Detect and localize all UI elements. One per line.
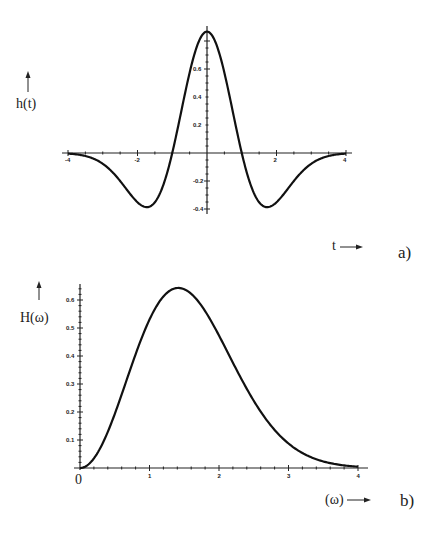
panel-label-a: a) [398, 243, 411, 262]
x-tick-label: 4 [343, 157, 347, 163]
y-tick-label: 0.3 [66, 381, 75, 387]
x-tick-label: 1 [148, 473, 152, 479]
y-tick-label: -0.2 [193, 178, 204, 184]
x-tick-label: 2 [274, 157, 278, 163]
y-label-a: h(t) [16, 96, 37, 112]
x-tick-label: -4 [65, 157, 71, 163]
y-tick-label: -0.4 [193, 206, 204, 212]
y-tick-label: 0.6 [66, 297, 75, 303]
figure: -4-224-0.4-0.20.20.40.6 h(t) t a) 12340.… [0, 0, 438, 536]
y-tick-label: 0.6 [193, 66, 202, 72]
y-tick-label: 0.4 [193, 94, 202, 100]
x-label-a: t [332, 238, 336, 253]
y-label-b: H(ω) [20, 310, 49, 326]
x-tick-label: 2 [218, 473, 222, 479]
ticks-b: 12340.10.20.30.40.50.6 [66, 289, 361, 479]
y-tick-label: 0.4 [66, 353, 75, 359]
up-arrow-head-icon [37, 281, 42, 288]
right-arrow-head-icon [356, 245, 363, 250]
panel-label-b: b) [400, 491, 414, 510]
chart-b: 12340.10.20.30.40.50.6 [66, 284, 368, 479]
up-arrow-head-icon [26, 71, 31, 78]
chart-a: -4-224-0.4-0.20.20.40.6 [62, 26, 352, 214]
origin-label-b: 0 [75, 472, 82, 487]
ticks-a: -4-224-0.4-0.20.20.40.6 [65, 41, 347, 212]
x-tick-label: 3 [287, 473, 291, 479]
right-arrow-head-icon [364, 498, 371, 503]
x-label-b: (ω) [325, 492, 344, 508]
y-tick-label: 0.1 [66, 437, 75, 443]
curve-H-omega [80, 288, 358, 468]
y-tick-label: 0.2 [66, 409, 75, 415]
y-tick-label: 0.5 [66, 325, 75, 331]
y-tick-label: 0.2 [193, 122, 202, 128]
x-tick-label: -2 [135, 157, 141, 163]
x-tick-label: 4 [357, 473, 361, 479]
